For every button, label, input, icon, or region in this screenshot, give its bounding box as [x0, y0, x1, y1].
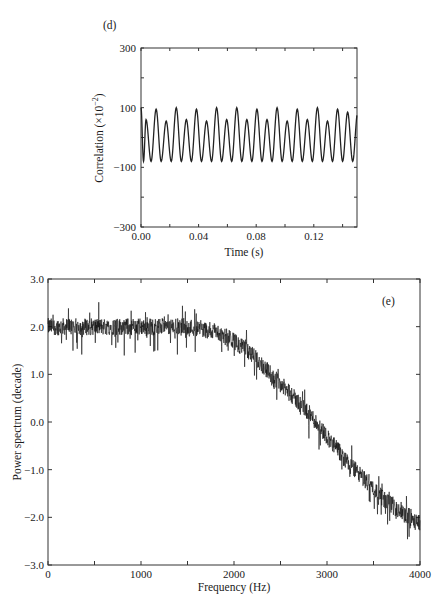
x-axis-title-d: Time (s) [225, 246, 264, 259]
y-tick-label: 100 [120, 102, 137, 114]
y-tick-labels-e: 3.0 2.0 1.0 0.0 −1.0 −2.0 −3.0 [24, 273, 44, 571]
x-tick-label: 0.12 [304, 230, 323, 242]
axis-ticks-e [48, 279, 420, 565]
y-tick-label: −1.0 [24, 464, 44, 476]
power-spectrum-trace [48, 302, 420, 539]
x-tick-label: 3000 [316, 568, 339, 580]
chart-power-spectrum: (e) 3.0 2.0 1.0 0.0 −1.0 −2.0 −3.0 0 100… [11, 273, 432, 594]
correlation-trace [141, 108, 357, 162]
x-tick-label: 0.04 [189, 230, 209, 242]
y-axis-title-d: Correlation (×10−2) [91, 93, 106, 183]
y-tick-label: −2.0 [24, 511, 44, 523]
figure: (d) 300 100 −100 −300 0.00 0.04 0.08 0.1… [0, 0, 445, 605]
y-tick-label: 2.0 [30, 321, 44, 333]
plot-frame-e [48, 279, 420, 565]
x-tick-label: 0.08 [247, 230, 267, 242]
y-tick-label: 0.0 [30, 416, 44, 428]
y-tick-label: −100 [113, 161, 136, 173]
panel-label-e: (e) [382, 295, 395, 308]
y-tick-label: 300 [120, 42, 137, 54]
x-tick-label: 0 [45, 568, 51, 580]
x-axis-title-e: Frequency (Hz) [198, 581, 271, 594]
x-tick-label: 0.00 [131, 230, 151, 242]
y-tick-label: −3.0 [24, 559, 44, 571]
y-axis-title-e: Power spectrum (decade) [11, 363, 24, 480]
y-tick-labels-d: 300 100 −100 −300 [113, 42, 136, 233]
panel-label-d: (d) [103, 19, 117, 32]
chart-correlation: (d) 300 100 −100 −300 0.00 0.04 0.08 0.1… [91, 19, 357, 259]
x-tick-labels-d: 0.00 0.04 0.08 0.12 [131, 230, 323, 242]
x-tick-label: 1000 [130, 568, 153, 580]
y-tick-label: 3.0 [30, 273, 44, 285]
x-tick-label: 4000 [409, 568, 432, 580]
y-tick-label: 1.0 [30, 368, 44, 380]
x-tick-label: 2000 [223, 568, 246, 580]
x-tick-labels-e: 0 1000 2000 3000 4000 [45, 568, 431, 580]
